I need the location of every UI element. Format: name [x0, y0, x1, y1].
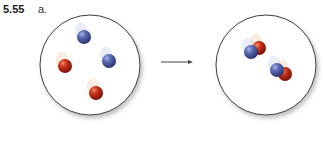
red-atom [58, 59, 72, 73]
arrow-head-icon [188, 60, 193, 64]
left-container [40, 15, 140, 115]
container-circle [40, 15, 140, 115]
blue-atom [77, 30, 91, 44]
container-circle [216, 15, 316, 115]
blue-atom [244, 45, 258, 59]
blue-atom [270, 63, 284, 77]
blue-atom [102, 54, 116, 68]
reaction-diagram [0, 0, 323, 145]
reaction-arrow [161, 60, 193, 64]
right-container [216, 15, 316, 115]
red-atom [89, 86, 103, 100]
